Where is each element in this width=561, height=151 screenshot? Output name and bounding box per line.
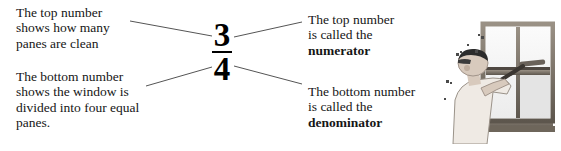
callout-bottom-left: The bottom number shows the window is di… [16, 69, 139, 131]
leader-line-top-right [234, 22, 302, 37]
callout-bottom-right: The bottom number is called the denomina… [308, 84, 415, 130]
person-ear [464, 65, 470, 71]
fraction-callout-diagram: The top number shows how many panes are … [0, 0, 561, 151]
callout-bottom-left-line-2: shows the window is [16, 84, 139, 99]
callout-top-right-line-2: is called the [308, 27, 394, 42]
callout-top-left-line-1: The top number [16, 5, 110, 20]
person-cap-brim [458, 59, 471, 64]
fraction-three-fourths: 3 4 [205, 20, 239, 84]
callout-top-right-line-1: The top number [308, 12, 394, 27]
callout-bottom-right-line-1: The bottom number [308, 84, 415, 99]
callout-bottom-right-line-2: is called the [308, 99, 415, 114]
callout-top-right: The top number is called the numerator [308, 12, 394, 58]
callout-top-left-line-2: shows how many [16, 20, 110, 35]
leader-line-bottom-right [234, 66, 302, 84]
fraction-numerator: 3 [205, 20, 239, 50]
leader-line-bottom-left [146, 67, 212, 86]
person-cleaning-window-illustration [437, 8, 555, 144]
window-sill-lip [479, 126, 555, 132]
callout-bottom-left-line-1: The bottom number [16, 69, 139, 84]
fraction-denominator: 4 [205, 54, 239, 84]
callout-top-left-line-3: panes are clean [16, 36, 110, 51]
window-pane-lower-right [520, 75, 550, 118]
leader-line-top-left [130, 21, 212, 36]
callout-bottom-right-term: denominator [308, 115, 415, 130]
callout-top-right-term: numerator [308, 43, 394, 58]
callout-top-left: The top number shows how many panes are … [16, 5, 110, 51]
callout-bottom-left-line-4: panes. [16, 115, 139, 130]
callout-bottom-left-line-3: divided into four equal [16, 100, 139, 115]
